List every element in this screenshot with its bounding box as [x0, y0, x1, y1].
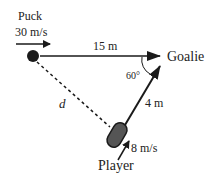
unknown-distance-label: d: [59, 96, 66, 111]
puck-speed-label: 30 m/s: [15, 25, 48, 39]
dashed-distance-line: [37, 62, 110, 127]
puck: [27, 50, 39, 62]
puck-label: Puck: [18, 9, 42, 23]
goalie-label: Goalie: [167, 49, 204, 64]
angle-arc: [142, 57, 150, 74]
distance-player-goalie-label: 4 m: [145, 96, 164, 110]
player-speed-label: 8 m/s: [131, 141, 158, 155]
hockey-diagram: Puck 30 m/s 15 m Goalie 60° d 4 m 8 m/s …: [0, 0, 224, 179]
distance-puck-goalie-label: 15 m: [93, 39, 118, 53]
angle-label: 60°: [126, 70, 140, 81]
player-label: Player: [98, 158, 134, 173]
